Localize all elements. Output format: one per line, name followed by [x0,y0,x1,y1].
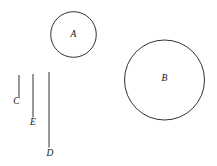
circle-a-label: A [70,29,77,39]
circle-b-label: B [162,73,168,83]
geometric-figure-canvas: A B C E D [0,0,217,166]
figure-svg: A B C E D [0,0,217,166]
segment-d-label: D [46,148,54,158]
segment-e-label: E [29,117,36,127]
segment-c-label: C [13,96,20,106]
